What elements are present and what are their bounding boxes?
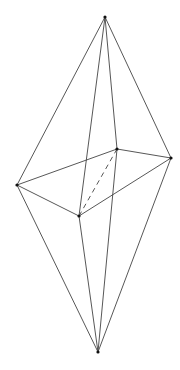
vertex-top: [103, 15, 106, 18]
edge-top-left: [17, 17, 105, 185]
edge-top-back: [105, 17, 117, 149]
edge-front-left: [17, 185, 79, 216]
vertices: [15, 15, 172, 353]
edge-top-right: [105, 17, 171, 158]
edge-bottom-back: [98, 149, 117, 352]
vertex-back: [115, 147, 118, 150]
edge-right-front: [79, 158, 171, 216]
edge-bottom-left: [17, 185, 98, 352]
vertex-right: [169, 156, 172, 159]
edge-back-right: [117, 149, 171, 158]
edge-bottom-right: [98, 158, 171, 352]
vertex-front: [77, 214, 80, 217]
octahedron-diagram: [0, 0, 180, 370]
edge-left-back: [17, 149, 117, 185]
edge-top-front: [79, 17, 105, 216]
visible-edges: [17, 17, 171, 352]
vertex-bottom: [96, 350, 99, 353]
vertex-left: [15, 183, 18, 186]
